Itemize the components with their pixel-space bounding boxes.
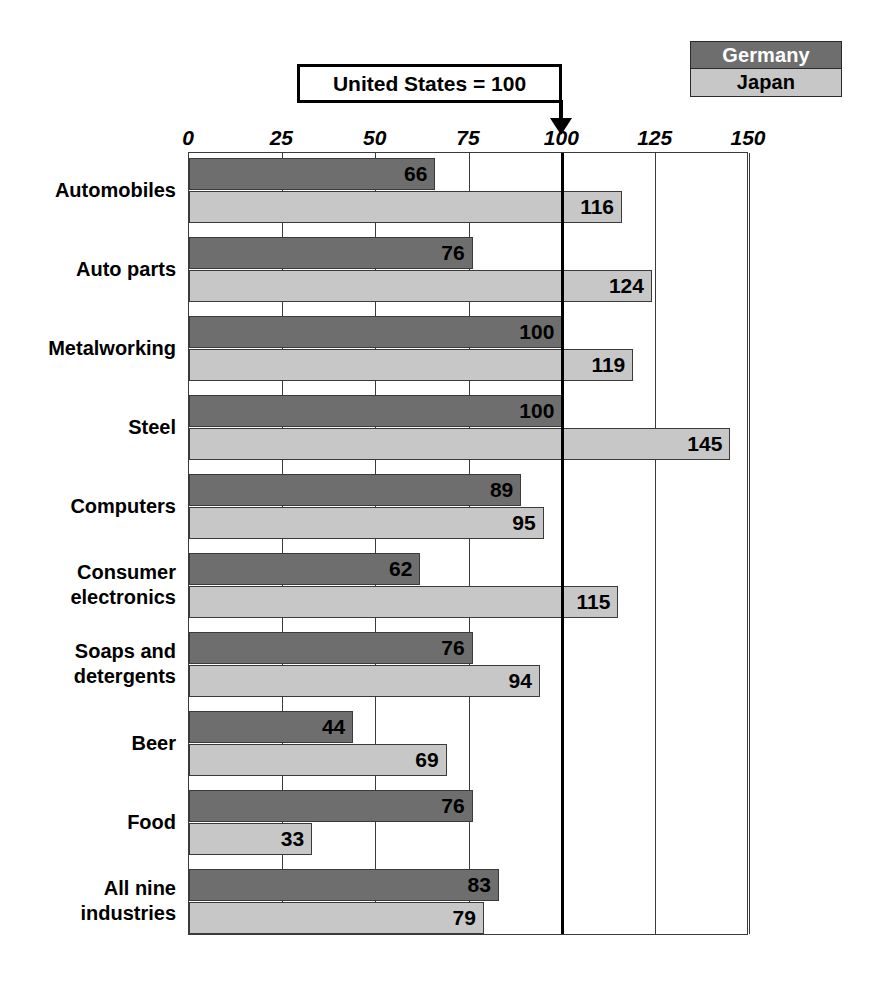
bar-value-label: 94 (509, 669, 539, 693)
bar-japan: 33 (189, 823, 312, 855)
bar-group: 62115 (189, 553, 747, 619)
legend-label-germany: Germany (722, 44, 809, 66)
bar-group: 7694 (189, 632, 747, 698)
x-axis-tick-labels: 0255075100125150 (0, 126, 881, 152)
bar-japan: 124 (189, 270, 652, 302)
bar-value-label: 79 (453, 906, 483, 930)
bar-value-label: 100 (519, 399, 561, 423)
legend-label-japan: Japan (737, 71, 795, 93)
bar-group: 8995 (189, 474, 747, 540)
bar-value-label: 76 (441, 636, 471, 660)
reference-line-100 (561, 153, 564, 934)
bar-japan: 94 (189, 665, 540, 697)
bar-value-label: 76 (441, 241, 471, 265)
bar-germany: 100 (189, 395, 562, 427)
bar-japan: 69 (189, 744, 447, 776)
bar-group: 4469 (189, 711, 747, 777)
bar-japan: 95 (189, 507, 544, 539)
category-label-line: industries (0, 901, 176, 926)
category-label-line: Auto parts (0, 257, 176, 282)
category-label: Computers (0, 494, 176, 519)
bar-group: 66116 (189, 158, 747, 224)
bar-value-label: 44 (322, 715, 352, 739)
chart-container: Germany Japan United States = 100 025507… (0, 0, 881, 985)
bar-japan: 115 (189, 586, 618, 618)
bar-germany: 76 (189, 632, 473, 664)
bar-germany: 89 (189, 474, 521, 506)
category-label: Consumerelectronics (0, 560, 176, 610)
x-axis-tick-0: 0 (182, 126, 194, 150)
bar-japan: 119 (189, 349, 633, 381)
category-label: Automobiles (0, 178, 176, 203)
bar-japan: 79 (189, 902, 484, 934)
bar-group: 7633 (189, 790, 747, 856)
plot-area: 6611676124100119100145899562115769444697… (188, 152, 748, 935)
x-axis-tick-25: 25 (270, 126, 293, 150)
bar-germany: 62 (189, 553, 420, 585)
bar-value-label: 33 (281, 827, 311, 851)
category-label: Auto parts (0, 257, 176, 282)
category-label-line: detergents (0, 664, 176, 689)
category-label-line: Metalworking (0, 336, 176, 361)
category-label-line: Beer (0, 731, 176, 756)
reference-line-callout-label: United States = 100 (300, 67, 559, 100)
bar-value-label: 83 (468, 873, 498, 897)
category-label-line: Computers (0, 494, 176, 519)
bar-group: 76124 (189, 237, 747, 303)
x-axis-tick-150: 150 (730, 126, 765, 150)
category-label: Food (0, 810, 176, 835)
bar-japan: 145 (189, 428, 730, 460)
category-label: Metalworking (0, 336, 176, 361)
bar-japan: 116 (189, 191, 622, 223)
category-label-line: All nine (0, 876, 176, 901)
bar-germany: 76 (189, 790, 473, 822)
y-axis-category-labels: AutomobilesAuto partsMetalworkingSteelCo… (0, 152, 176, 935)
bar-group: 100119 (189, 316, 747, 382)
x-axis-tick-75: 75 (456, 126, 479, 150)
bar-value-label: 69 (415, 748, 445, 772)
bar-value-label: 116 (580, 195, 621, 219)
bar-value-label: 95 (512, 511, 542, 535)
category-label: Soaps anddetergents (0, 639, 176, 689)
category-label: All nineindustries (0, 876, 176, 926)
bar-value-label: 119 (591, 353, 632, 377)
reference-line-callout: United States = 100 (297, 64, 562, 103)
bar-value-label: 124 (609, 274, 651, 298)
category-label-line: Steel (0, 415, 176, 440)
bar-value-label: 115 (576, 590, 617, 614)
category-label: Beer (0, 731, 176, 756)
x-axis-tick-50: 50 (363, 126, 386, 150)
bar-germany: 44 (189, 711, 353, 743)
chart-legend: Germany Japan (690, 41, 842, 97)
category-label-line: Consumer (0, 560, 176, 585)
category-label-line: Soaps and (0, 639, 176, 664)
bar-groups: 6611676124100119100145899562115769444697… (189, 153, 747, 934)
x-axis-tick-100: 100 (544, 126, 579, 150)
bar-group: 8379 (189, 869, 747, 935)
bar-germany: 83 (189, 869, 499, 901)
bar-value-label: 145 (687, 432, 729, 456)
bar-value-label: 100 (519, 320, 561, 344)
category-label-line: Automobiles (0, 178, 176, 203)
legend-item-germany: Germany (691, 42, 841, 69)
bar-value-label: 66 (404, 162, 434, 186)
x-axis-tick-125: 125 (637, 126, 672, 150)
bar-germany: 66 (189, 158, 435, 190)
legend-item-japan: Japan (691, 69, 841, 96)
category-label-line: Food (0, 810, 176, 835)
gridline-150 (749, 153, 750, 934)
bar-value-label: 76 (441, 794, 471, 818)
bar-group: 100145 (189, 395, 747, 461)
bar-germany: 76 (189, 237, 473, 269)
bar-value-label: 89 (490, 478, 520, 502)
bar-germany: 100 (189, 316, 562, 348)
category-label: Steel (0, 415, 176, 440)
category-label-line: electronics (0, 585, 176, 610)
bar-value-label: 62 (389, 557, 419, 581)
